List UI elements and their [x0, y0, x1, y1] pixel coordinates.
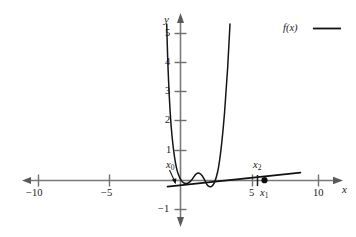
- y-axis-label: y: [164, 14, 169, 25]
- x1-annotation-label: x1: [260, 188, 268, 199]
- function-curve-fx: [167, 24, 230, 187]
- y-tick-label-2: 2: [165, 115, 170, 126]
- x-axis-left-arrow: [22, 177, 31, 184]
- secant-line: [168, 173, 301, 187]
- x1-label-subscript: 1: [265, 191, 269, 200]
- function-plot-figure: y x 5 4 3 2 1 −1 −10 −5 5 10 x0 x2 x1 f(…: [0, 0, 356, 237]
- x2-annotation-label: x2: [253, 160, 261, 171]
- y-axis-bottom-arrow: [177, 217, 184, 227]
- x2-label-base: x: [253, 159, 258, 170]
- y-tick-label-1: 1: [166, 145, 171, 156]
- y-tick-label-minus1: −1: [158, 204, 169, 215]
- x-tick-label-10: 10: [313, 188, 324, 199]
- x-tick-label-minus5: −5: [101, 188, 112, 199]
- x-axis-label: x: [342, 184, 347, 195]
- x-tick-label-5: 5: [249, 188, 254, 199]
- x1-point-dot: [261, 177, 267, 183]
- plot-canvas: [0, 0, 356, 237]
- y-tick-label-4: 4: [165, 57, 170, 68]
- legend-entry-fx-label: f(x): [283, 23, 298, 34]
- x0-label-subscript: 0: [171, 163, 175, 172]
- x0-pointer: [170, 170, 177, 184]
- y-tick-label-3: 3: [165, 86, 170, 97]
- x0-label-base: x: [166, 159, 171, 170]
- y-tick-label-5: 5: [165, 28, 170, 39]
- x2-label-subscript: 2: [258, 163, 262, 172]
- x-axis: [22, 177, 343, 184]
- x1-label-base: x: [260, 187, 265, 198]
- y-axis-top-arrow: [177, 13, 184, 23]
- x-tick-label-minus10: −10: [26, 188, 42, 199]
- x0-annotation-label: x0: [166, 160, 174, 171]
